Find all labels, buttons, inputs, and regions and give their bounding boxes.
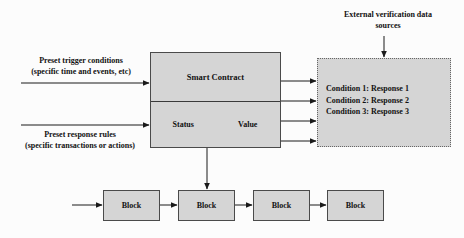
- preset-response-label: Preset response rules (specific transact…: [10, 130, 150, 151]
- block-node-3: Block: [253, 190, 310, 221]
- smart-contract-status-label: Status: [151, 120, 216, 129]
- smart-contract-node: Smart Contract Status Value: [150, 52, 281, 148]
- conditions-list: Condition 1: Response 1 Condition 2: Res…: [326, 83, 409, 118]
- block-node-4: Block: [327, 190, 384, 221]
- condition-item-1: Condition 1: Response 1: [326, 83, 409, 95]
- conditions-response-box: Condition 1: Response 1 Condition 2: Res…: [317, 58, 451, 147]
- external-sources-label: External verification data sources: [326, 10, 450, 31]
- condition-item-3: Condition 3: Response 3: [326, 106, 409, 118]
- trigger-line1: Preset trigger conditions: [39, 56, 123, 65]
- smart-contract-title: Smart Contract: [151, 53, 280, 102]
- trigger-line2: (specific time and events, etc): [31, 67, 131, 76]
- external-sources-line1: External verification data: [344, 10, 432, 19]
- preset-trigger-label: Preset trigger conditions (specific time…: [16, 56, 146, 77]
- response-line1: Preset response rules: [44, 130, 116, 139]
- block-node-1: Block: [103, 190, 160, 221]
- condition-item-2: Condition 2: Response 2: [326, 95, 409, 107]
- block-node-2: Block: [178, 190, 235, 221]
- response-line2: (specific transactions or actions): [25, 141, 135, 150]
- smart-contract-fields: Status Value: [151, 101, 280, 148]
- external-sources-line2: sources: [375, 21, 400, 30]
- smart-contract-value-label: Value: [216, 120, 281, 129]
- diagram-canvas: External verification data sources Prese…: [0, 0, 464, 238]
